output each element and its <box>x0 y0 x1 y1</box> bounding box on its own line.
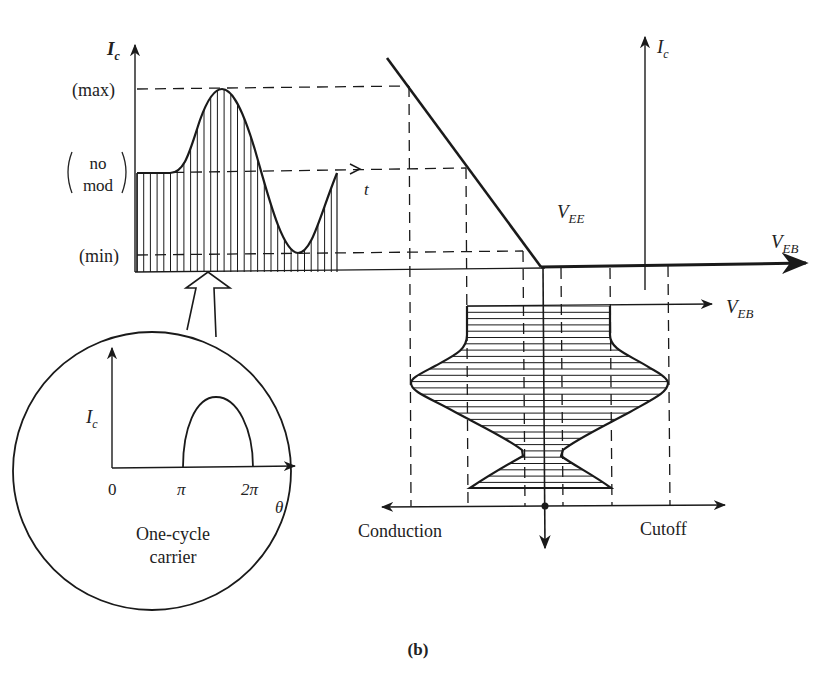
origin-dot <box>542 503 549 510</box>
conduction-label: Conduction <box>358 521 442 541</box>
inset-caption-line2: carrier <box>150 547 197 567</box>
veb-axis <box>541 263 806 267</box>
tick-2pi: 2π <box>241 480 259 499</box>
waveform-panel: t Ic (max) no mod (min) <box>68 38 545 272</box>
inset-theta-axis <box>112 466 295 468</box>
no-mod-label-line2: mod <box>83 176 114 195</box>
theta-label: θ <box>275 498 283 517</box>
inset-circle <box>13 332 291 610</box>
ic-axis-label-right: Ic <box>656 36 669 61</box>
max-level-line <box>137 86 409 89</box>
inset-ic-label: Ic <box>85 406 98 431</box>
inset-caption-line1: One-cycle <box>136 524 210 544</box>
left-paren <box>68 152 72 193</box>
input-panel: VEB Conduction Cutoff <box>358 267 754 548</box>
figure-caption: (b) <box>408 640 429 659</box>
tick-0: 0 <box>108 480 117 499</box>
vee-bias-label: VEE <box>557 201 585 226</box>
min-label: (min) <box>79 246 119 267</box>
carrier-inset: Ic 0 π 2π θ One-cycle carrier <box>13 272 295 610</box>
input-hatching <box>405 306 672 489</box>
time-arrow-icon <box>350 164 360 174</box>
input-envelope <box>411 306 668 488</box>
baseline <box>135 268 545 272</box>
ic-axis-label: Ic <box>106 38 120 63</box>
cutoff-label: Cutoff <box>640 519 687 539</box>
zoom-arrow-icon <box>186 272 230 337</box>
veb-axis-label-lower: VEB <box>726 296 754 321</box>
min-level-line <box>137 251 523 255</box>
veb-axis-label: VEB <box>771 231 799 256</box>
t-axis-label: t <box>364 180 370 199</box>
waveform-hatching <box>137 80 331 272</box>
max-label: (max) <box>72 80 115 101</box>
no-mod-level-line <box>137 168 466 173</box>
class-c-modulation-diagram: t Ic (max) no mod (min) Ic VEB VEE <box>0 0 837 681</box>
veb-axis-lower <box>467 304 712 306</box>
transfer-panel: Ic VEB VEE <box>387 36 806 506</box>
tick-pi: π <box>177 480 186 499</box>
half-cycle-pulse <box>183 397 253 467</box>
cutoff-arrow <box>545 505 725 506</box>
right-paren <box>122 152 126 193</box>
no-mod-label-line1: no <box>90 154 107 173</box>
conduction-arrow <box>382 506 545 507</box>
